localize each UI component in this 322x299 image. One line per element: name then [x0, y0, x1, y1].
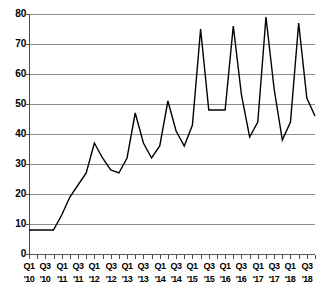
quarterly-line-chart: 01020304050607080 Q1'10Q3'10Q1'11Q3'11Q1… [0, 0, 322, 299]
x-tick-mark [94, 255, 95, 259]
x-tick-mark [299, 255, 300, 259]
y-tick-label-20: 20 [0, 189, 26, 199]
y-tick-label-80: 80 [0, 9, 26, 19]
y-tick-label-10: 10 [0, 219, 26, 229]
x-tick-mark [225, 255, 226, 259]
x-tick-mark [78, 255, 79, 259]
x-tick-mark [192, 255, 193, 259]
series-polyline [29, 17, 315, 230]
x-tick-mark [282, 255, 283, 259]
y-tick-label-50: 50 [0, 99, 26, 109]
x-tick-mark [233, 255, 234, 259]
x-tick-mark [37, 255, 38, 259]
x-tick-mark [54, 255, 55, 259]
x-tick-mark [135, 255, 136, 259]
x-tick-mark [152, 255, 153, 259]
y-tick-mark-20 [25, 194, 29, 195]
x-tick-mark [86, 255, 87, 259]
y-tick-mark-0 [25, 254, 29, 255]
y-tick-mark-40 [25, 134, 29, 135]
x-tick-mark [62, 255, 63, 259]
x-axis-tick-labels: Q1'10Q3'10Q1'11Q3'11Q1'12Q3'12Q1'13Q3'13… [29, 261, 315, 299]
x-tick-mark [176, 255, 177, 259]
y-tick-mark-70 [25, 44, 29, 45]
y-tick-mark-60 [25, 74, 29, 75]
x-tick-mark [241, 255, 242, 259]
y-tick-label-0: 0 [0, 249, 26, 259]
y-tick-mark-10 [25, 224, 29, 225]
x-tick-mark [184, 255, 185, 259]
x-tick-mark [127, 255, 128, 259]
x-tick-mark [307, 255, 308, 259]
x-tick-mark [266, 255, 267, 259]
x-tick-mark [29, 255, 30, 259]
x-tick-quarter: Q3 [296, 261, 318, 272]
x-tick-mark [168, 255, 169, 259]
x-tick-mark [201, 255, 202, 259]
x-axis-tick-marks [29, 255, 315, 260]
y-axis-tick-labels: 01020304050607080 [0, 0, 26, 299]
x-tick-mark [70, 255, 71, 259]
x-tick-mark [290, 255, 291, 259]
x-tick-mark [111, 255, 112, 259]
x-tick-mark [274, 255, 275, 259]
x-tick-mark [119, 255, 120, 259]
x-tick-mark [250, 255, 251, 259]
y-tick-mark-50 [25, 104, 29, 105]
x-tick-label-Q3-18: Q3'18 [296, 261, 318, 285]
x-tick-mark [160, 255, 161, 259]
x-tick-mark [45, 255, 46, 259]
y-tick-label-30: 30 [0, 159, 26, 169]
x-tick-mark [258, 255, 259, 259]
y-tick-mark-30 [25, 164, 29, 165]
x-tick-year: '18 [296, 274, 318, 285]
y-tick-label-60: 60 [0, 69, 26, 79]
x-tick-mark [209, 255, 210, 259]
data-series-line [29, 14, 315, 254]
y-tick-label-70: 70 [0, 39, 26, 49]
y-tick-mark-80 [25, 14, 29, 15]
x-tick-mark [103, 255, 104, 259]
x-tick-mark [217, 255, 218, 259]
y-tick-label-40: 40 [0, 129, 26, 139]
x-tick-mark [315, 255, 316, 259]
x-tick-mark [143, 255, 144, 259]
